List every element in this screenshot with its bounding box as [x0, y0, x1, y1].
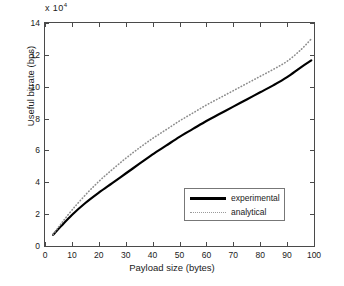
x-tick-top-80 [260, 23, 261, 27]
x-tick-100 [314, 242, 315, 246]
x-tick-90 [287, 242, 288, 246]
x-tick-top-60 [206, 23, 207, 27]
x-tick-0 [45, 242, 46, 246]
x-tick-top-100 [314, 23, 315, 27]
legend-swatch-solid-line-icon [190, 197, 226, 200]
x-tick-top-90 [287, 23, 288, 27]
y-axis-title-wrapper: Useful bitrate (bps) [25, 6, 39, 166]
x-tick-top-70 [233, 23, 234, 27]
x-tick-top-20 [99, 23, 100, 27]
x-tick-label-70: 70 [218, 250, 248, 260]
legend-item-experimental[interactable]: experimental [185, 191, 286, 205]
x-tick-top-10 [72, 23, 73, 27]
x-tick-label-50: 50 [165, 250, 195, 260]
x-axis-title: Payload size (bytes) [0, 262, 344, 273]
y-tick-right-10 [310, 87, 314, 88]
x-tick-70 [233, 242, 234, 246]
x-tick-60 [206, 242, 207, 246]
x-tick-top-0 [45, 23, 46, 27]
x-tick-label-0: 0 [30, 250, 60, 260]
y-tick-label-4: 4 [18, 177, 40, 187]
legend-label-experimental: experimental [231, 191, 280, 205]
x-tick-10 [72, 242, 73, 246]
x-tick-top-30 [126, 23, 127, 27]
y-tick-2 [45, 214, 49, 215]
legend-label-analytical: analytical [231, 205, 266, 219]
y-tick-right-12 [310, 55, 314, 56]
x-tick-top-40 [153, 23, 154, 27]
x-tick-label-40: 40 [138, 250, 168, 260]
y-tick-label-2: 2 [18, 209, 40, 219]
y-axis-exponent-base: x 10 [45, 3, 64, 13]
y-tick-right-6 [310, 150, 314, 151]
y-axis-exponent-power: 4 [64, 2, 68, 8]
y-tick-6 [45, 150, 49, 151]
y-tick-right-0 [310, 246, 314, 247]
legend-swatch-dotted-line-icon [190, 212, 226, 213]
x-tick-label-80: 80 [245, 250, 275, 260]
x-tick-50 [180, 242, 181, 246]
y-tick-10 [45, 87, 49, 88]
chart-legend[interactable]: experimental analytical [184, 188, 285, 221]
x-tick-label-20: 20 [84, 250, 114, 260]
legend-item-analytical[interactable]: analytical [185, 205, 286, 219]
x-tick-40 [153, 242, 154, 246]
x-tick-label-60: 60 [191, 250, 221, 260]
x-tick-label-90: 90 [272, 250, 302, 260]
y-tick-right-2 [310, 214, 314, 215]
y-tick-4 [45, 182, 49, 183]
x-tick-label-10: 10 [57, 250, 87, 260]
x-tick-label-100: 100 [299, 250, 329, 260]
y-tick-8 [45, 119, 49, 120]
y-tick-right-4 [310, 182, 314, 183]
x-tick-30 [126, 242, 127, 246]
x-tick-20 [99, 242, 100, 246]
y-tick-0 [45, 246, 49, 247]
y-tick-12 [45, 55, 49, 56]
y-axis-exponent-label: x 104 [45, 2, 67, 13]
y-tick-right-8 [310, 119, 314, 120]
y-axis-title: Useful bitrate (bps) [25, 6, 36, 166]
x-tick-label-30: 30 [111, 250, 141, 260]
chart-figure: x 104 024681012140102030405060708090100 … [0, 0, 344, 286]
x-tick-80 [260, 242, 261, 246]
x-tick-top-50 [180, 23, 181, 27]
